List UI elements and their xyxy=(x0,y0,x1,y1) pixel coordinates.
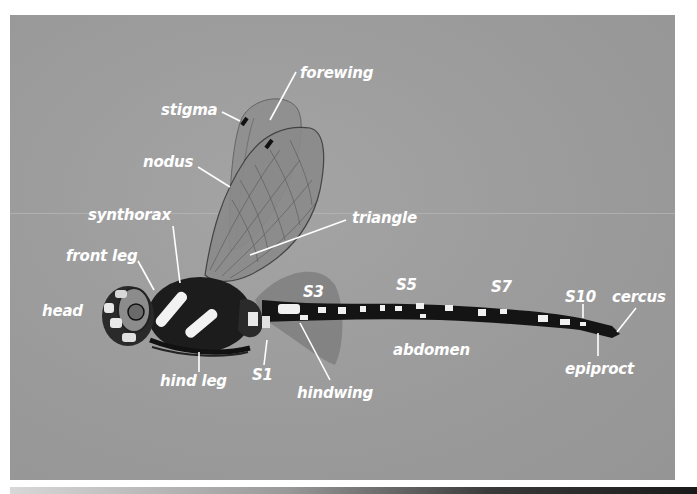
label-abdomen: abdomen xyxy=(393,343,470,358)
label-s7: S7 xyxy=(491,280,512,295)
leader-stigma xyxy=(222,112,240,121)
label-s1: S1 xyxy=(252,368,273,383)
synthorax-shape xyxy=(148,277,270,356)
label-head: head xyxy=(42,304,83,319)
label-nodus: nodus xyxy=(143,155,193,170)
leader-nodus xyxy=(198,167,230,187)
leader-synthorax xyxy=(173,226,180,283)
label-s3: S3 xyxy=(303,285,324,300)
label-triangle: triangle xyxy=(352,211,417,226)
label-forewing: forewing xyxy=(300,66,373,81)
label-stigma: stigma xyxy=(161,103,218,118)
label-s5: S5 xyxy=(396,278,417,293)
hindwing-upper-shape xyxy=(205,127,324,281)
leader-front-leg xyxy=(138,261,154,290)
head-shape xyxy=(102,286,154,346)
label-epiproct: epiproct xyxy=(565,362,634,377)
label-hindwing: hindwing xyxy=(297,386,373,401)
label-s10: S10 xyxy=(565,290,596,305)
label-cercus: cercus xyxy=(612,290,666,305)
leader-cercus xyxy=(617,308,636,332)
label-hind-leg: hind leg xyxy=(160,374,227,389)
leader-s1 xyxy=(264,340,267,365)
label-front-leg: front leg xyxy=(66,249,138,264)
label-synthorax: synthorax xyxy=(88,208,171,223)
